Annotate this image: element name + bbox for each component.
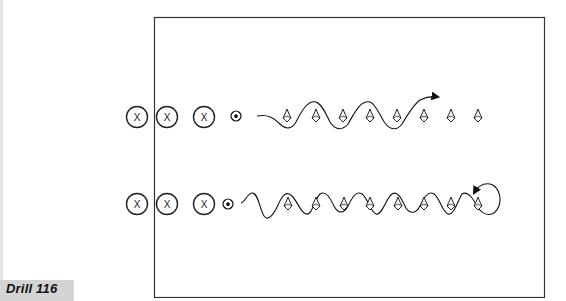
top-row — [127, 97, 483, 129]
cone-icon — [283, 109, 291, 122]
cone-icon — [393, 109, 401, 122]
soccer-ball-icon — [231, 111, 241, 121]
circled-x-icon — [194, 194, 215, 215]
bottom-row — [127, 184, 500, 218]
cone-icon — [474, 109, 482, 122]
circled-x-icon — [157, 107, 178, 128]
cone-icon — [447, 109, 455, 122]
field-boundary — [155, 18, 545, 298]
cone-icon — [284, 197, 292, 210]
circled-x-icon — [194, 107, 215, 128]
cone-icon — [447, 197, 455, 210]
drill-label: Drill 116 — [0, 280, 74, 301]
circled-x-icon — [157, 194, 178, 215]
soccer-ball-icon — [223, 199, 233, 209]
circled-x-icon — [127, 107, 148, 128]
cone-icon — [420, 197, 428, 210]
circled-x-icon — [127, 194, 148, 215]
cone-icon — [474, 197, 482, 210]
cone-icon — [312, 197, 320, 210]
cone-icon — [312, 109, 320, 122]
dribble-path — [257, 97, 438, 129]
cone-icon — [420, 109, 428, 122]
cone-icon — [366, 197, 374, 210]
cone-icon — [339, 109, 347, 122]
drill-label-text: Drill 116 — [6, 281, 57, 296]
cone-icon — [366, 109, 374, 122]
